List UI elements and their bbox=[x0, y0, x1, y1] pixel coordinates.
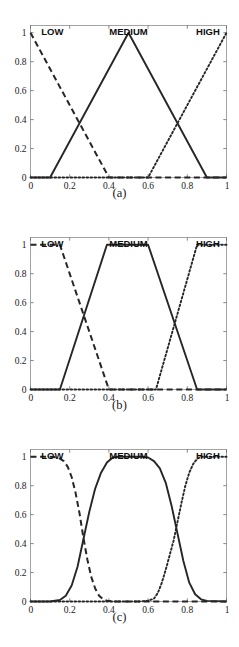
caption-b: (b) bbox=[0, 398, 239, 413]
y-tick-label: 0 bbox=[22, 173, 27, 183]
chart-b-svg: 00.20.40.60.81 00.20.40.60.81 LOWMEDIUMH… bbox=[0, 212, 239, 402]
series-label-medium: MEDIUM bbox=[109, 450, 148, 461]
curve-medium bbox=[31, 33, 227, 178]
chart-b-curves bbox=[31, 245, 227, 390]
curve-medium bbox=[31, 245, 227, 390]
tick-marks-a bbox=[31, 26, 227, 178]
plot-frame-a bbox=[31, 26, 227, 178]
series-label-high: HIGH bbox=[196, 26, 220, 37]
series-label-medium: MEDIUM bbox=[109, 26, 148, 37]
tick-marks-b bbox=[31, 238, 227, 390]
curve-high bbox=[31, 457, 227, 602]
chart-panel-b: 00.20.40.60.81 00.20.40.60.81 LOWMEDIUMH… bbox=[0, 212, 239, 427]
curve-high bbox=[31, 245, 227, 390]
chart-b-axes bbox=[31, 238, 227, 390]
chart-a-y-tick-labels: 00.20.40.60.81 bbox=[15, 28, 27, 183]
chart-b-series-labels: LOWMEDIUMHIGH bbox=[41, 238, 220, 249]
series-label-low: LOW bbox=[41, 450, 63, 461]
curve-low bbox=[31, 457, 227, 602]
series-label-low: LOW bbox=[41, 238, 63, 249]
y-tick-label: 0 bbox=[22, 385, 27, 395]
y-tick-label: 0.2 bbox=[15, 144, 27, 154]
caption-c: (c) bbox=[0, 610, 239, 625]
y-tick-label: 0.6 bbox=[15, 510, 27, 520]
chart-c-curves bbox=[31, 457, 227, 602]
chart-c-axes bbox=[31, 450, 227, 602]
y-tick-label: 0.2 bbox=[15, 568, 27, 578]
curve-low bbox=[31, 33, 227, 178]
chart-c-series-labels: LOWMEDIUMHIGH bbox=[41, 450, 220, 461]
series-label-high: HIGH bbox=[196, 238, 220, 249]
y-tick-label: 0.4 bbox=[15, 539, 27, 549]
chart-a-axes bbox=[31, 26, 227, 178]
chart-a-svg: 00.20.40.60.81 00.20.40.60.81 LOWMEDIUMH… bbox=[0, 0, 239, 190]
membership-function-figure: 00.20.40.60.81 00.20.40.60.81 LOWMEDIUMH… bbox=[0, 0, 239, 647]
curve-high bbox=[31, 33, 227, 178]
plot-frame-c bbox=[31, 450, 227, 602]
chart-c-y-tick-labels: 00.20.40.60.81 bbox=[15, 452, 27, 607]
series-label-low: LOW bbox=[41, 26, 63, 37]
y-tick-label: 0.6 bbox=[15, 86, 27, 96]
chart-a-series-labels: LOWMEDIUMHIGH bbox=[41, 26, 220, 37]
y-tick-label: 1 bbox=[22, 28, 27, 38]
curve-low bbox=[31, 245, 227, 390]
chart-panel-a: 00.20.40.60.81 00.20.40.60.81 LOWMEDIUMH… bbox=[0, 0, 239, 215]
chart-a-curves bbox=[31, 33, 227, 178]
y-tick-label: 0.2 bbox=[15, 356, 27, 366]
plot-frame-b bbox=[31, 238, 227, 390]
chart-b-y-tick-labels: 00.20.40.60.81 bbox=[15, 240, 27, 395]
chart-panel-c: 00.20.40.60.81 00.20.40.60.81 LOWMEDIUMH… bbox=[0, 424, 239, 639]
y-tick-label: 0.8 bbox=[15, 269, 27, 279]
y-tick-label: 0.6 bbox=[15, 298, 27, 308]
y-tick-label: 0.8 bbox=[15, 481, 27, 491]
caption-a: (a) bbox=[0, 186, 239, 201]
y-tick-label: 1 bbox=[22, 240, 27, 250]
y-tick-label: 0 bbox=[22, 597, 27, 607]
series-label-high: HIGH bbox=[196, 450, 220, 461]
y-tick-label: 0.4 bbox=[15, 115, 27, 125]
y-tick-label: 0.4 bbox=[15, 327, 27, 337]
y-tick-label: 1 bbox=[22, 452, 27, 462]
series-label-medium: MEDIUM bbox=[109, 238, 148, 249]
chart-c-svg: 00.20.40.60.81 00.20.40.60.81 LOWMEDIUMH… bbox=[0, 424, 239, 614]
y-tick-label: 0.8 bbox=[15, 57, 27, 67]
curve-medium bbox=[31, 457, 227, 602]
tick-marks-c bbox=[31, 450, 227, 602]
